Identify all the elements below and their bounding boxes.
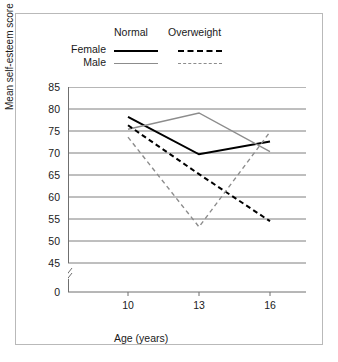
legend-column-header-overweight: Overweight <box>168 26 221 38</box>
series-line <box>128 117 270 154</box>
legend-column-header-normal: Normal <box>114 26 148 38</box>
legend-swatch-female-overweight <box>178 50 222 52</box>
y-axis-tick-label: 45 <box>36 258 60 269</box>
y-axis-tick-label: 50 <box>36 236 60 247</box>
x-axis-tick-label: 16 <box>255 300 285 311</box>
chart-legend: Normal Overweight Female Male <box>56 26 256 74</box>
plot-area: 0455055606570758085101316 <box>68 87 306 302</box>
y-axis-tick-label: 55 <box>36 214 60 225</box>
y-axis-tick-label: 85 <box>36 82 60 93</box>
legend-row-header-female: Female <box>56 43 106 55</box>
y-axis-tick-label: 70 <box>36 148 60 159</box>
y-axis-tick-label: 60 <box>36 192 60 203</box>
legend-swatch-male-overweight <box>178 63 222 64</box>
y-axis-tick-label: 0 <box>36 287 60 298</box>
legend-swatch-female-normal <box>114 50 158 52</box>
legend-row-header-male: Male <box>56 56 106 68</box>
x-axis-label: Age (years) <box>114 332 168 344</box>
chart-canvas <box>68 87 306 302</box>
y-axis-tick-label: 65 <box>36 170 60 181</box>
x-axis-tick-label: 10 <box>113 300 143 311</box>
legend-swatch-male-normal <box>114 63 158 64</box>
figure-frame: Normal Overweight Female Male 0455055606… <box>15 13 323 345</box>
y-axis-label: Mean self-esteem score <box>4 3 15 110</box>
x-axis-tick-label: 13 <box>184 300 214 311</box>
y-axis-tick-label: 75 <box>36 126 60 137</box>
y-axis-tick-label: 80 <box>36 104 60 115</box>
